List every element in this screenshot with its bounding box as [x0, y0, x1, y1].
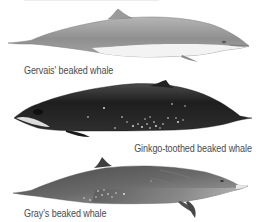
grays-beaked-whale-label: Gray's beaked whale — [24, 207, 106, 219]
ginkgo-toothed-beaked-whale-illustration — [14, 80, 252, 137]
gervais-beaked-whale-illustration — [8, 9, 249, 62]
gervais-beaked-whale-label: Gervais' beaked whale — [24, 64, 113, 76]
whale-species-plate: Gervais' beaked whale Ginkgo-toothed bea… — [0, 0, 266, 222]
ginkgo-toothed-beaked-whale-label: Ginkgo-toothed beaked whale — [134, 142, 252, 154]
whale-illustrations — [0, 0, 266, 222]
